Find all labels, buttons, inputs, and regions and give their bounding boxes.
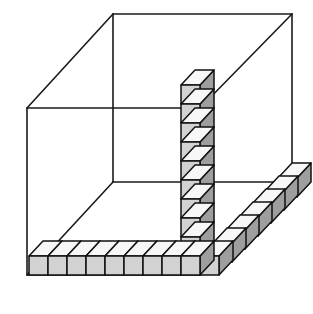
unit-cube-front-face <box>124 256 143 275</box>
unit-cube-front-face <box>105 256 124 275</box>
unit-cube-front-face <box>48 256 67 275</box>
unit-cube-front-face <box>162 256 181 275</box>
unit-cube-box-diagram <box>0 0 313 314</box>
figure-container <box>0 0 313 314</box>
unit-cube-front-face <box>86 256 105 275</box>
unit-cube-front-face <box>67 256 86 275</box>
unit-cube-front-face <box>143 256 162 275</box>
unit-cube-front-face <box>181 256 200 275</box>
unit-cube-front-face <box>29 256 48 275</box>
